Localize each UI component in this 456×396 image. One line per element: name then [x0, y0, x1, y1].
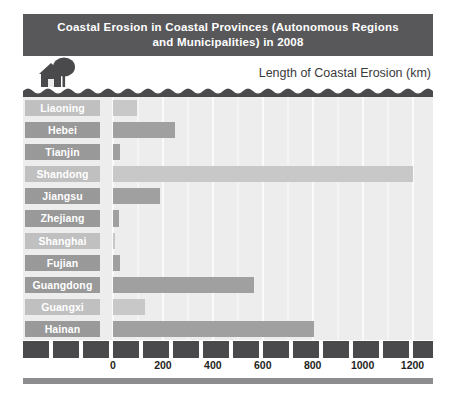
axis-segment: [293, 341, 319, 358]
plot-area: LiaoningHebeiTianjinShandongJiangsuZheji…: [23, 97, 433, 340]
bar: [113, 122, 175, 138]
bar-rows: LiaoningHebeiTianjinShandongJiangsuZheji…: [23, 97, 433, 340]
bar-row-label: Shandong: [25, 166, 100, 182]
bar: [113, 277, 254, 293]
x-tick-label: 200: [154, 359, 172, 371]
bar: [113, 144, 120, 160]
bar-row[interactable]: Hebei: [23, 122, 433, 138]
x-tick-label: 1200: [401, 359, 424, 371]
bar: [113, 166, 413, 182]
bar: [113, 100, 137, 116]
bar-row[interactable]: Fujian: [23, 255, 433, 271]
axis-segment: [323, 341, 349, 358]
axis-segment: [233, 341, 259, 358]
bar-row-label: Guangdong: [25, 277, 100, 293]
bar-row[interactable]: Shandong: [23, 166, 433, 182]
axis-segment: [113, 341, 139, 358]
axis-title: Length of Coastal Erosion (km): [259, 66, 431, 80]
axis-segment: [413, 341, 433, 358]
bar-row-label: Guangxi: [25, 299, 100, 315]
bar: [113, 299, 145, 315]
bar-row-label: Zhejiang: [25, 210, 100, 226]
bar-row[interactable]: Tianjin: [23, 144, 433, 160]
axis-segment: [23, 341, 49, 358]
bar-row-label: Fujian: [25, 255, 100, 271]
bar-row-label: Liaoning: [25, 100, 100, 116]
bar-row[interactable]: Hainan: [23, 321, 433, 337]
chart-title-banner: Coastal Erosion in Coastal Provinces (Au…: [23, 14, 433, 56]
x-axis-strip: [23, 341, 433, 358]
axis-segment: [83, 341, 109, 358]
bar: [113, 321, 314, 337]
bottom-accent-bar: [23, 378, 433, 384]
axis-segment: [53, 341, 79, 358]
chart-root: Coastal Erosion in Coastal Provinces (Au…: [0, 0, 456, 396]
axis-segment: [383, 341, 409, 358]
page-title: Coastal Erosion in Coastal Provinces (Au…: [57, 20, 399, 50]
bar-row[interactable]: Zhejiang: [23, 210, 433, 226]
axis-segment: [203, 341, 229, 358]
bar-row[interactable]: Jiangsu: [23, 188, 433, 204]
x-tick-label: 400: [204, 359, 222, 371]
bar-row[interactable]: Shanghai: [23, 233, 433, 249]
wavy-water-icon: [23, 84, 433, 96]
bar: [113, 233, 115, 249]
bar-row[interactable]: Guangdong: [23, 277, 433, 293]
x-tick-label: 1000: [351, 359, 374, 371]
x-tick-label: 0: [110, 359, 116, 371]
x-axis-tick-labels: 020040060080010001200: [23, 359, 433, 375]
bar-row[interactable]: Liaoning: [23, 100, 433, 116]
bar-row-label: Hebei: [25, 122, 100, 138]
axis-segment: [263, 341, 289, 358]
bar-row-label: Tianjin: [25, 144, 100, 160]
bar-row-label: Hainan: [25, 321, 100, 337]
bar-row-label: Jiangsu: [25, 188, 100, 204]
axis-segment: [353, 341, 379, 358]
axis-segment: [173, 341, 199, 358]
bar-row[interactable]: Guangxi: [23, 299, 433, 315]
bar: [113, 210, 119, 226]
bar: [113, 255, 120, 271]
bar-row-label: Shanghai: [25, 233, 100, 249]
bar: [113, 188, 160, 204]
x-tick-label: 800: [304, 359, 322, 371]
axis-segment: [143, 341, 169, 358]
x-tick-label: 600: [254, 359, 272, 371]
